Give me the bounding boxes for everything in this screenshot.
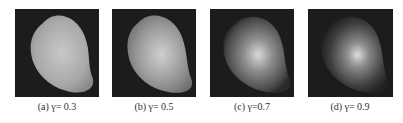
caption-d: (d) γ= 0.9 bbox=[300, 101, 400, 112]
panel-c-image bbox=[210, 9, 294, 97]
caption-a: (a) γ= 0.3 bbox=[7, 101, 107, 112]
caption-c: (c) γ=0.7 bbox=[202, 101, 302, 112]
panel-d-image bbox=[308, 9, 393, 97]
seed-shape-gamma-0.7 bbox=[210, 9, 294, 97]
panel-a-image bbox=[15, 9, 99, 97]
seed-shape-gamma-0.9 bbox=[308, 9, 393, 97]
seed-shape-gamma-0.3 bbox=[15, 9, 99, 97]
panel-b-image bbox=[112, 9, 196, 97]
caption-b: (b) γ= 0.5 bbox=[104, 101, 204, 112]
seed-shape-gamma-0.5 bbox=[112, 9, 196, 97]
